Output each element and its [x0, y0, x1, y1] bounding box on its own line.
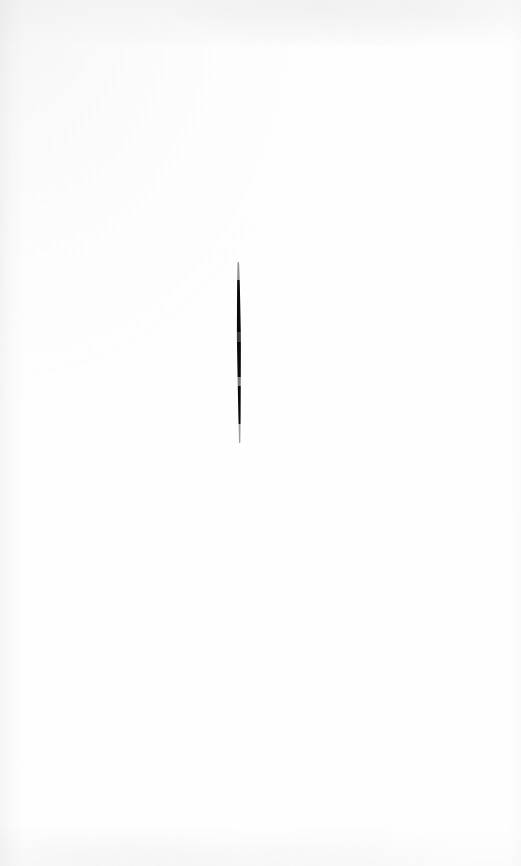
page-canvas — [0, 0, 521, 866]
paper-background — [0, 0, 521, 866]
